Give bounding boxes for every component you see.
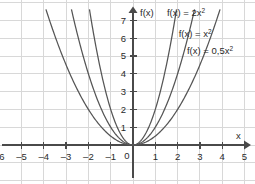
x-tick-label: –5 xyxy=(16,151,27,162)
y-axis-label: f(x) xyxy=(140,7,154,18)
x-axis-label: x xyxy=(236,130,241,141)
x-tick-label: –2 xyxy=(83,151,94,162)
x-tick-label: 1 xyxy=(153,151,158,162)
y-tick-label: 6 xyxy=(121,33,126,44)
x-tick-label: 5 xyxy=(242,151,247,162)
y-tick-label: 5 xyxy=(121,50,126,61)
y-tick-label: 4 xyxy=(121,68,126,79)
coordinate-plot: –6–5–4–3–2–1123450 1234567 f(x)x f(x) = … xyxy=(0,0,255,184)
x-tick-label: –3 xyxy=(61,151,72,162)
curve-label-3: f(x) = 0,5x2 xyxy=(187,45,234,56)
x-axis-tick-labels: –6–5–4–3–2–1123450 xyxy=(0,150,247,162)
curve-label-2: f(x) = x2 xyxy=(179,28,212,39)
y-axis-arrow-icon xyxy=(129,7,138,14)
y-tick-label: 1 xyxy=(121,122,126,133)
x-tick-label: –4 xyxy=(39,151,50,162)
curve-label-1: f(x) = 2x2 xyxy=(167,7,206,18)
y-tick-label: 3 xyxy=(121,86,126,97)
y-axis-tick-labels: 1234567 xyxy=(121,15,126,133)
x-tick-label: 4 xyxy=(220,151,225,162)
x-tick-label: 2 xyxy=(175,151,180,162)
y-tick-label: 2 xyxy=(121,104,126,115)
origin-label: 0 xyxy=(124,150,129,161)
x-tick-label: –1 xyxy=(105,151,116,162)
parabola-graph-figure: –6–5–4–3–2–1123450 1234567 f(x)x f(x) = … xyxy=(0,0,255,184)
y-tick-label: 7 xyxy=(121,15,126,26)
curve-annotations: f(x) = 2x2f(x) = x2f(x) = 0,5x2 xyxy=(167,7,234,56)
x-tick-label: 3 xyxy=(197,151,202,162)
x-tick-label: –6 xyxy=(0,151,4,162)
